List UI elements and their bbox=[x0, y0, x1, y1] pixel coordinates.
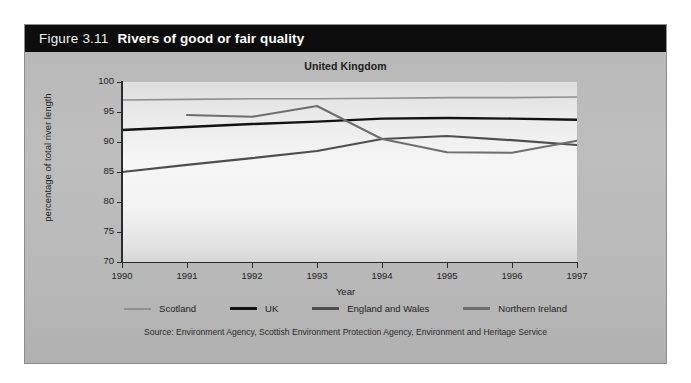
legend-label: UK bbox=[265, 303, 278, 314]
x-tick-mark bbox=[187, 263, 188, 268]
x-tick-label: 1997 bbox=[557, 270, 597, 281]
x-tick-label: 1990 bbox=[102, 270, 142, 281]
legend-item[interactable]: England and Wales bbox=[312, 303, 429, 314]
plot-lines-svg bbox=[122, 82, 577, 262]
figure-number: Figure 3.11 bbox=[39, 31, 109, 46]
y-tick-label: 100 bbox=[80, 75, 114, 86]
legend-swatch bbox=[124, 308, 151, 310]
series-line bbox=[187, 106, 577, 153]
legend-item[interactable]: Scotland bbox=[124, 303, 196, 314]
y-tick-label: 90 bbox=[80, 135, 114, 146]
x-tick-mark bbox=[382, 263, 383, 268]
chart-subtitle: United Kingdom bbox=[25, 60, 666, 72]
legend-item[interactable]: UK bbox=[230, 303, 278, 314]
x-tick-mark bbox=[577, 263, 578, 268]
legend-swatch bbox=[312, 307, 339, 310]
figure-title: Rivers of good or fair quality bbox=[118, 31, 305, 46]
x-tick-mark bbox=[252, 263, 253, 268]
figure-panel: United Kingdom percentage of total river… bbox=[25, 52, 666, 363]
series-line bbox=[122, 136, 577, 172]
y-tick-label: 95 bbox=[80, 105, 114, 116]
y-tick-mark bbox=[117, 82, 122, 83]
y-tick-mark bbox=[117, 232, 122, 233]
source-note: Source: Environment Agency, Scottish Env… bbox=[25, 327, 666, 337]
y-tick-label: 75 bbox=[80, 225, 114, 236]
series-line bbox=[122, 118, 577, 130]
x-tick-mark bbox=[122, 263, 123, 268]
legend-item[interactable]: Northern Ireland bbox=[463, 303, 567, 314]
legend-label: Northern Ireland bbox=[498, 303, 567, 314]
y-tick-mark bbox=[117, 202, 122, 203]
x-axis-label: Year bbox=[25, 286, 666, 297]
x-tick-label: 1996 bbox=[492, 270, 532, 281]
legend-swatch bbox=[230, 307, 257, 310]
chart-legend: ScotlandUKEngland and WalesNorthern Irel… bbox=[25, 303, 666, 314]
legend-label: Scotland bbox=[159, 303, 196, 314]
y-tick-label: 70 bbox=[80, 255, 114, 266]
x-axis-line bbox=[121, 262, 578, 264]
x-tick-mark bbox=[447, 263, 448, 268]
series-line bbox=[122, 97, 577, 100]
x-tick-mark bbox=[317, 263, 318, 268]
y-tick-mark bbox=[117, 112, 122, 113]
legend-label: England and Wales bbox=[347, 303, 429, 314]
x-tick-label: 1992 bbox=[232, 270, 272, 281]
plot-area bbox=[122, 82, 577, 262]
figure-header-bar: Figure 3.11 Rivers of good or fair quali… bbox=[25, 25, 666, 52]
figure-container: Figure 3.11 Rivers of good or fair quali… bbox=[25, 25, 666, 363]
y-tick-mark bbox=[117, 142, 122, 143]
x-tick-label: 1995 bbox=[427, 270, 467, 281]
y-tick-label: 85 bbox=[80, 165, 114, 176]
y-tick-label: 80 bbox=[80, 195, 114, 206]
x-tick-label: 1993 bbox=[297, 270, 337, 281]
x-tick-mark bbox=[512, 263, 513, 268]
y-axis-label: percentage of total river length bbox=[42, 58, 53, 258]
y-tick-mark bbox=[117, 172, 122, 173]
legend-swatch bbox=[463, 307, 490, 309]
x-tick-label: 1991 bbox=[167, 270, 207, 281]
x-tick-label: 1994 bbox=[362, 270, 402, 281]
